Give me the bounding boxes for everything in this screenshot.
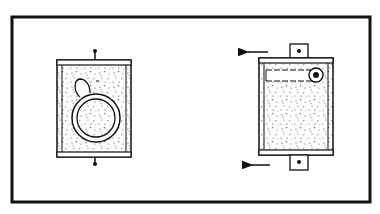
rail-bottom (57, 152, 131, 157)
pin-top-icon (93, 49, 97, 53)
rail-bottom (259, 150, 333, 155)
roller-center-icon (313, 72, 319, 78)
right-component-view (248, 44, 333, 170)
rail-top (57, 60, 131, 65)
dial-inner-face (77, 99, 115, 137)
diagram-canvas (0, 0, 380, 214)
rail-top (259, 58, 333, 63)
lug-top-hole-icon (297, 49, 301, 53)
pin-bottom-icon (93, 162, 97, 166)
lug-bottom-hole-icon (297, 160, 301, 164)
left-component-view (57, 49, 131, 166)
